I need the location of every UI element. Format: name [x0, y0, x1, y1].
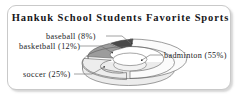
anchor-dot-soccer: [103, 66, 105, 68]
slice-label-badminton: badminton (55%): [164, 51, 227, 60]
slice-label-basketball: basketball (12%): [19, 42, 80, 51]
slice-label-baseball: baseball (8%): [46, 32, 96, 41]
slice-label-soccer: soccer (25%): [23, 70, 71, 79]
anchor-dot-baseball: [131, 43, 133, 45]
anchor-dot-basketball: [111, 52, 113, 54]
donut-hole-top: [113, 53, 147, 66]
anchor-dot-badminton: [141, 59, 143, 61]
chart-figure: Hankuk School Students Favorite Sports: [0, 0, 241, 100]
